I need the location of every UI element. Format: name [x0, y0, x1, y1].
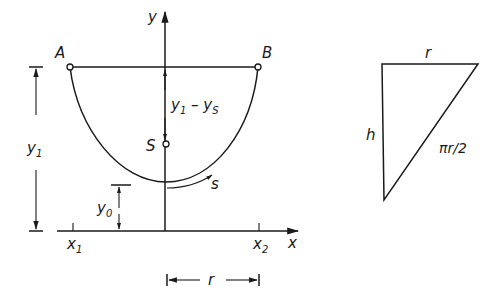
label-y0: y0	[96, 199, 112, 219]
label-triangle-h: h	[366, 126, 376, 144]
label-arc-s: s	[211, 175, 219, 193]
point-a-icon	[67, 64, 73, 70]
curve-path	[70, 67, 258, 182]
label-b: B	[262, 44, 272, 62]
label-x-axis: x	[287, 234, 297, 252]
label-y1: y1	[26, 139, 42, 159]
label-a: A	[54, 44, 65, 62]
point-s-icon	[163, 141, 169, 147]
label-y-axis: y	[147, 8, 158, 26]
label-triangle-r: r	[425, 44, 432, 62]
label-r-dimension: r	[208, 271, 215, 289]
diagram-canvas: A B S y x x1 x2 y1 y0 y1 – yS s r r h πr…	[0, 0, 503, 301]
triangle-shape	[382, 64, 478, 200]
label-x1: x1	[66, 235, 82, 255]
label-x2: x2	[252, 235, 268, 255]
label-triangle-hypotenuse: πr/2	[439, 140, 467, 156]
point-b-icon	[255, 64, 261, 70]
label-s-point: S	[146, 137, 156, 155]
label-y1-minus-ys: y1 – yS	[170, 96, 219, 116]
